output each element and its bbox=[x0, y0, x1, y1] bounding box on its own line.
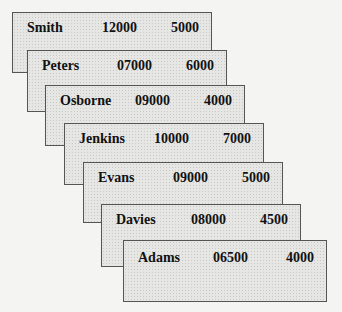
record-name: Peters bbox=[42, 58, 79, 74]
record-value-1: 09000 bbox=[173, 170, 208, 186]
record-row: Osborne 09000 4000 bbox=[46, 93, 244, 111]
record-row: Peters 07000 6000 bbox=[28, 58, 226, 76]
record-row: Adams 06500 4000 bbox=[124, 250, 326, 268]
record-value-2: 5000 bbox=[242, 170, 270, 186]
record-row: Evans 09000 5000 bbox=[84, 170, 282, 188]
record-value-1: 06500 bbox=[213, 250, 248, 266]
record-value-2: 6000 bbox=[186, 58, 214, 74]
record-name: Davies bbox=[116, 212, 156, 228]
record-name: Jenkins bbox=[79, 131, 125, 147]
record-value-2: 4000 bbox=[204, 93, 232, 109]
record-card-adams: Adams 06500 4000 bbox=[123, 240, 327, 302]
record-value-1: 10000 bbox=[154, 131, 189, 147]
record-name: Adams bbox=[138, 250, 180, 266]
record-value-2: 7000 bbox=[223, 131, 251, 147]
record-value-1: 09000 bbox=[135, 93, 170, 109]
record-value-1: 08000 bbox=[191, 212, 226, 228]
record-value-2: 4000 bbox=[286, 250, 314, 266]
record-name: Osborne bbox=[60, 93, 111, 109]
record-row: Smith 12000 5000 bbox=[13, 20, 211, 38]
record-value-2: 4500 bbox=[260, 212, 288, 228]
record-row: Davies 08000 4500 bbox=[102, 212, 300, 230]
record-name: Evans bbox=[98, 170, 135, 186]
record-value-1: 12000 bbox=[102, 20, 137, 36]
record-name: Smith bbox=[27, 20, 63, 36]
record-value-1: 07000 bbox=[117, 58, 152, 74]
record-value-2: 5000 bbox=[171, 20, 199, 36]
record-row: Jenkins 10000 7000 bbox=[65, 131, 263, 149]
